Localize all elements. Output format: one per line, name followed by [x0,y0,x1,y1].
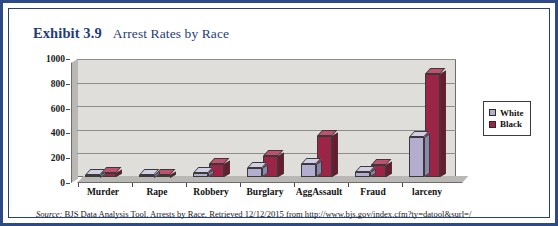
bar-fraud-white [355,172,370,177]
y-axis-tick-label: 400 [25,128,65,138]
bar-group-murder [85,59,122,177]
bar-side [440,71,446,177]
bar-side [332,132,338,177]
source-citation: BJS Data Analysis Tool. Arrests by Race.… [62,209,471,219]
bar-murder-white [85,175,100,178]
bar-group-aggassault [301,59,338,177]
y-axis-tick-label: 1000 [25,54,65,64]
legend-label: White [500,108,524,118]
page-title: Exhibit 3.9Arrest Rates by Race [33,25,229,42]
x-axis-tick-mark [294,183,295,187]
bar-face [193,173,208,177]
bar-side [278,152,284,177]
bar-face [409,137,424,177]
x-axis-tick-mark [186,183,187,187]
chart-legend: WhiteBlack [483,101,531,136]
bar-face [301,164,316,177]
source-note: Source: BJS Data Analysis Tool. Arrests … [36,209,537,219]
x-axis-tick-mark [348,183,349,187]
x-axis-tick-mark [240,183,241,187]
exhibit-number: Exhibit 3.9 [33,25,102,41]
y-axis-tick-label: 0 [25,178,65,188]
bar-group-larceny [409,59,446,177]
bar-rape-white [139,175,154,178]
y-axis-tick-mark [66,109,70,110]
bar-group-fraud [355,59,392,177]
figure-frame-inner-white: Exhibit 3.9Arrest Rates by Race 02004006… [6,6,552,220]
plot-floor [77,176,468,183]
bar-group-burglary [247,59,284,177]
y-axis-tick-mark [66,133,70,134]
bar-face [247,168,262,177]
y-axis-tick-label: 600 [25,104,65,114]
x-axis-tick-mark [132,183,133,187]
legend-swatch-icon [489,109,496,116]
plot-area [71,59,456,183]
bar-aggassault-white [301,164,316,177]
figure-frame-inner-blue: Exhibit 3.9Arrest Rates by Race 02004006… [8,8,550,218]
x-axis-tick-label: larceny [392,187,462,197]
legend-item-black: Black [489,119,524,129]
bar-burglary-white [247,168,262,177]
x-axis-tick-mark [402,183,403,187]
y-axis-tick-mark [66,183,70,184]
x-axis-tick-mark [78,183,79,187]
legend-label: Black [500,119,522,129]
legend-item-white: White [489,108,524,118]
exhibit-caption: Arrest Rates by Race [113,26,229,41]
bar-group-rape [139,59,176,177]
y-axis-tick-mark [66,84,70,85]
y-axis-tick-mark [66,158,70,159]
legend-swatch-icon [489,121,496,128]
bar-side [424,133,430,177]
source-label: Source: [36,209,62,219]
bar-robbery-white [193,173,208,177]
y-axis-tick-label: 800 [25,79,65,89]
bar-face [355,172,370,177]
bar-larceny-white [409,137,424,177]
bar-group-robbery [193,59,230,177]
y-axis-tick-label: 200 [25,153,65,163]
figure-frame: Exhibit 3.9Arrest Rates by Race 02004006… [0,0,558,226]
plot-left-wall [71,59,78,183]
y-axis-tick-mark [66,59,70,60]
